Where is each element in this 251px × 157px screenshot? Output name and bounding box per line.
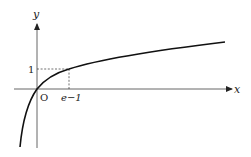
graph: y x O e−1 1: [0, 0, 251, 157]
dashed-guides: [37, 69, 69, 89]
log-curve: [20, 42, 225, 147]
origin-label: O: [40, 92, 48, 103]
y-axis-label: y: [32, 8, 40, 21]
y-tick-label: 1: [28, 64, 34, 75]
x-axis-label: x: [234, 83, 241, 96]
x-tick-label: e−1: [61, 92, 82, 103]
